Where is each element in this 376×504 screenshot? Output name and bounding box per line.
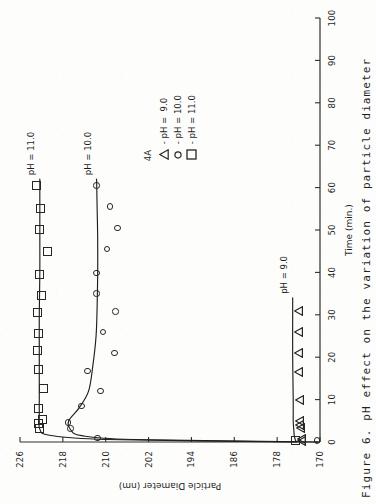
data-point-marker <box>94 435 101 442</box>
data-point-marker <box>36 204 45 213</box>
chart-svg <box>0 0 376 504</box>
data-point-marker <box>78 403 85 410</box>
scanned-figure-page: Particle Diameter (nm) Time (min.) pH = … <box>0 0 376 504</box>
y-tick-label: 194 <box>186 451 196 468</box>
y-tick-label: 218 <box>58 451 68 468</box>
x-axis-title: Time (min.) <box>344 204 354 256</box>
x-tick-label: 60 <box>327 182 337 193</box>
legend-item-label: - pH = 11.0 <box>187 95 197 144</box>
square-marker <box>186 147 197 162</box>
data-point-marker <box>97 388 104 395</box>
circle-marker <box>174 147 182 162</box>
data-point-marker <box>33 346 42 355</box>
data-point-marker <box>35 270 44 279</box>
annotation-ph-10: pH = 10.0 <box>83 132 93 175</box>
data-point-marker <box>314 437 321 444</box>
data-point-marker <box>34 365 43 374</box>
data-point-marker <box>114 225 121 232</box>
legend-item: - pH = 10.0 <box>171 95 184 162</box>
legend-rows: - pH = 9.0- pH = 10.0- pH = 11.0 <box>157 95 198 162</box>
y-tick-label: 226 <box>15 451 25 468</box>
y-tick-label: 170 <box>315 451 325 468</box>
data-point-marker <box>291 436 300 445</box>
chart-plot-area: Particle Diameter (nm) Time (min.) pH = … <box>0 0 376 504</box>
x-tick-label: 0 <box>327 439 337 445</box>
data-point-marker <box>84 368 91 375</box>
data-point-marker <box>107 203 114 210</box>
chart-legend: 4A - pH = 9.0- pH = 10.0- pH = 11.0 <box>143 95 199 162</box>
data-point-marker <box>111 350 118 357</box>
legend-item-label: - pH = 9.0 <box>159 98 169 144</box>
data-point-marker <box>35 226 44 235</box>
y-tick-label: 202 <box>144 451 154 468</box>
data-point-marker <box>67 425 74 432</box>
x-tick-label: 80 <box>327 97 337 108</box>
triangle-marker <box>159 147 169 162</box>
x-tick-label: 50 <box>327 224 337 235</box>
y-tick-label: 210 <box>101 451 111 468</box>
data-point-marker <box>112 308 119 315</box>
y-tick-label: 186 <box>229 451 239 468</box>
x-tick-label: 10 <box>327 394 337 405</box>
figure-caption: Figure 6. pH effect on the variation of … <box>360 58 373 498</box>
x-tick-label: 20 <box>327 352 337 363</box>
legend-item: - pH = 9.0 <box>157 95 170 162</box>
data-point-marker <box>34 329 43 338</box>
data-point-marker <box>38 415 47 424</box>
x-tick-label: 40 <box>327 267 337 278</box>
y-axis-title: Particle Diameter (nm) <box>119 481 222 491</box>
data-point-marker <box>33 308 42 317</box>
x-tick-label: 30 <box>327 309 337 320</box>
data-point-marker <box>39 385 48 394</box>
x-tick-label: 100 <box>327 10 337 27</box>
data-point-marker <box>37 291 46 300</box>
data-point-marker <box>93 290 100 297</box>
data-point-marker <box>32 181 41 190</box>
annotation-ph-9: pH = 9.0 <box>279 256 289 294</box>
legend-item: - pH = 11.0 <box>185 95 198 162</box>
data-point-marker <box>93 182 100 189</box>
x-tick-label: 70 <box>327 140 337 151</box>
x-tick-label: 90 <box>327 55 337 66</box>
y-tick-label: 178 <box>272 451 282 468</box>
annotation-ph-11: pH = 11.0 <box>26 132 36 175</box>
legend-item-label: - pH = 10.0 <box>173 95 183 144</box>
data-point-marker <box>43 247 52 256</box>
figure-stage: Particle Diameter (nm) Time (min.) pH = … <box>0 0 376 504</box>
legend-title: 4A <box>143 95 153 161</box>
data-point-marker <box>34 404 43 413</box>
